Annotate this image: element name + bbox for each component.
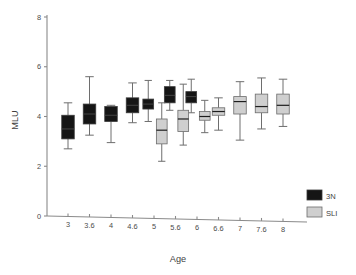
box-plot-3N-5 bbox=[143, 80, 154, 121]
y-axis-title: MLU bbox=[10, 110, 20, 129]
box-plot-series bbox=[62, 77, 290, 162]
y-tick-label: 8 bbox=[37, 13, 41, 22]
y-tick-label: 6 bbox=[37, 62, 41, 71]
x-tick-label: 6.6 bbox=[213, 224, 223, 233]
legend-item-SLI[interactable]: SLI bbox=[307, 207, 337, 218]
x-tick-label: 5.6 bbox=[170, 223, 180, 232]
box-plot-SLI-7 bbox=[234, 82, 247, 140]
box-plot-SLI-6 bbox=[199, 100, 210, 132]
y-axis: 02468 bbox=[37, 13, 47, 221]
box-plot-3N-3.6 bbox=[83, 77, 96, 135]
x-axis: 33.644.655.666.677.68 bbox=[47, 213, 307, 234]
box-plot-3N-4.6 bbox=[126, 83, 139, 123]
x-tick-label: 8 bbox=[281, 225, 285, 234]
box-plot-SLI-6.6 bbox=[212, 98, 225, 130]
box-plot-SLI-5 bbox=[156, 103, 167, 161]
x-tick-label: 7.6 bbox=[256, 225, 266, 234]
y-tick-label: 4 bbox=[37, 112, 41, 121]
y-tick-label: 2 bbox=[37, 162, 41, 171]
box-plot-SLI-8 bbox=[277, 79, 290, 126]
legend-swatch-icon bbox=[307, 190, 322, 200]
x-tick-label: 3 bbox=[66, 220, 70, 229]
x-tick-label: 7 bbox=[238, 224, 242, 233]
x-tick-label: 4.6 bbox=[127, 222, 137, 231]
x-tick-label: 3.6 bbox=[84, 221, 94, 230]
box-plot-3N-4 bbox=[105, 105, 118, 142]
y-tick-label: 0 bbox=[37, 212, 41, 221]
x-tick-label: 4 bbox=[109, 221, 113, 230]
boxplot-chart: 02468 33.644.655.666.677.68 3NSLI MLU Ag… bbox=[0, 0, 356, 275]
x-tick-label: 6 bbox=[195, 223, 199, 232]
box-plot-3N-6 bbox=[186, 79, 197, 113]
x-axis-title: Age bbox=[170, 254, 186, 264]
legend-label: SLI bbox=[326, 209, 337, 218]
box-plot-3N-3 bbox=[62, 103, 75, 149]
legend-swatch-icon bbox=[307, 207, 322, 217]
x-tick-label: 5 bbox=[152, 222, 156, 231]
legend-item-3N[interactable]: 3N bbox=[307, 190, 336, 201]
chart-legend: 3NSLI bbox=[307, 190, 337, 218]
legend-label: 3N bbox=[326, 192, 336, 201]
box-plot-3N-5.6 bbox=[164, 80, 175, 110]
box-plot-SLI-7.6 bbox=[255, 78, 268, 129]
